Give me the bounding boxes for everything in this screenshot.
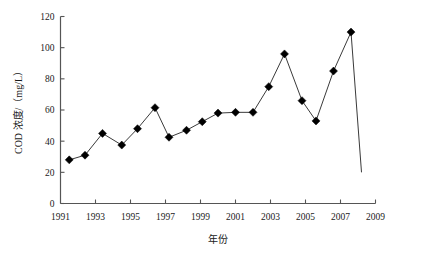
y-axis-tick-label: 60 <box>45 105 55 115</box>
data-point-marker <box>347 28 355 36</box>
y-axis-tick-label: 40 <box>45 137 55 147</box>
cod-concentration-line-chart: 020406080100120 199119931995199719992001… <box>0 0 421 256</box>
y-axis-tick-label: 80 <box>45 74 55 84</box>
data-point-marker <box>265 83 273 91</box>
data-point-marker <box>65 156 73 164</box>
y-axis-tick-label: 20 <box>45 168 55 178</box>
data-point-marker <box>165 133 173 141</box>
x-axis-title: 年份 <box>208 233 228 245</box>
x-axis-tick-label: 1999 <box>191 212 210 222</box>
x-axis-tick-label: 1991 <box>51 212 70 222</box>
x-axis-tick-labels: 1991199319951997199920012003200520072009 <box>51 212 385 222</box>
x-axis-tick-label: 2007 <box>331 212 350 222</box>
data-point-marker <box>281 50 289 58</box>
y-axis-tick-label: 120 <box>40 12 55 22</box>
data-point-marker <box>183 126 191 134</box>
data-point-marker <box>198 118 206 126</box>
chart-plot-area: 020406080100120 199119931995199719992001… <box>0 0 421 256</box>
data-point-marker <box>330 67 338 75</box>
x-axis-tick-label: 1997 <box>156 212 175 222</box>
x-axis-tick-label: 2005 <box>296 212 315 222</box>
data-point-marker <box>298 97 306 105</box>
x-axis-tick-label: 2009 <box>366 212 385 222</box>
data-point-marker <box>214 109 222 117</box>
x-axis-tick-label: 1993 <box>86 212 105 222</box>
data-point-marker <box>249 108 257 116</box>
y-axis-title: COD 浓度/（mg/L） <box>12 66 24 154</box>
x-axis-tick-label: 1995 <box>121 212 140 222</box>
x-axis-tick-label: 2001 <box>226 212 245 222</box>
data-point-marker <box>232 108 240 116</box>
y-axis-tick-label: 100 <box>40 43 55 53</box>
x-axis-tick-label: 2003 <box>261 212 280 222</box>
data-point-marker <box>312 117 320 125</box>
cod-series-markers <box>65 28 355 164</box>
y-axis-tick-labels: 020406080100120 <box>40 12 55 209</box>
y-axis-tick-label: 0 <box>50 199 55 209</box>
cod-series-line <box>69 32 361 172</box>
